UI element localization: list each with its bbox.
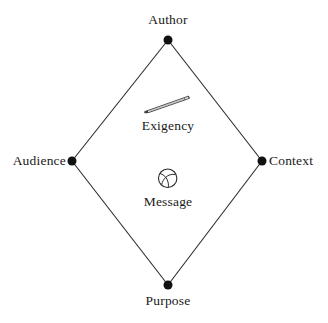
node-label-context: Context xyxy=(269,154,313,168)
ball-icon xyxy=(157,167,179,193)
node-label-purpose: Purpose xyxy=(146,294,191,308)
node-audience[interactable] xyxy=(68,157,77,166)
node-purpose[interactable] xyxy=(164,281,173,290)
node-label-author: Author xyxy=(148,13,187,27)
inner-item-exigency[interactable]: Exigency xyxy=(141,93,195,133)
pen-icon xyxy=(141,93,195,117)
node-label-audience: Audience xyxy=(13,154,66,168)
node-context[interactable] xyxy=(258,157,267,166)
inner-label-exigency: Exigency xyxy=(142,119,195,133)
inner-item-message[interactable]: Message xyxy=(144,167,193,209)
rhetorical-situation-diagram: Author Audience Context Purpose Exigency xyxy=(0,0,328,323)
inner-label-message: Message xyxy=(144,195,193,209)
node-author[interactable] xyxy=(164,36,173,45)
